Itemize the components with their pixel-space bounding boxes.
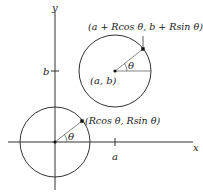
upper-point-marker bbox=[141, 47, 144, 50]
lower-point-marker bbox=[80, 119, 83, 122]
x-tick-label: a bbox=[112, 151, 118, 162]
lower-angle-label: θ bbox=[68, 131, 74, 142]
lower-point-label: (Rcos θ, Rsin θ) bbox=[85, 115, 160, 126]
upper-circle-group: θ (a, b) (a + Rcos θ, b + Rsin θ) bbox=[79, 21, 203, 107]
lower-angle-arc bbox=[65, 135, 68, 142]
y-tick-label: b bbox=[43, 66, 49, 77]
diagram-canvas: y x b a θ (a, b) (a + Rcos θ, b + Rsin θ… bbox=[0, 0, 203, 196]
upper-point-label: (a + Rcos θ, b + Rsin θ) bbox=[88, 21, 203, 32]
x-axis-label: x bbox=[193, 142, 199, 153]
upper-center-label: (a, b) bbox=[90, 75, 117, 86]
upper-angle-arc bbox=[125, 64, 128, 71]
y-axis-label: y bbox=[51, 2, 58, 13]
upper-center-dot bbox=[113, 69, 116, 72]
lower-center-dot bbox=[53, 140, 56, 143]
upper-angle-label: θ bbox=[128, 60, 134, 71]
